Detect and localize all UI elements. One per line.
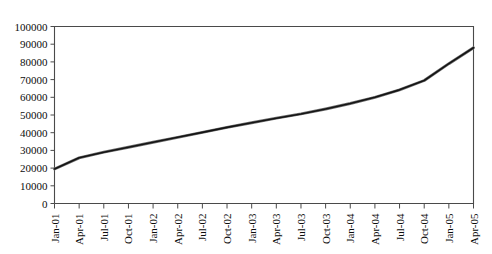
x-axis-tick-label: Jan-04 xyxy=(344,213,356,243)
x-axis-tick-label: Jul-04 xyxy=(394,213,406,241)
y-axis-tick-label: 30000 xyxy=(20,144,48,156)
x-axis-tick-label: Apr-02 xyxy=(172,214,184,246)
y-axis-tick-label: 20000 xyxy=(20,162,48,174)
x-axis-tick-label: Oct-04 xyxy=(418,213,430,244)
y-axis-tick-label: 0 xyxy=(42,198,48,210)
x-axis-tick-label: Jan-05 xyxy=(443,213,455,243)
x-axis-tick-label: Oct-03 xyxy=(320,213,332,244)
y-axis-tick-label: 70000 xyxy=(20,74,48,86)
line-chart: 0100002000030000400005000060000700008000… xyxy=(0,0,492,254)
x-axis-tick-label: Apr-05 xyxy=(468,213,480,245)
plot-frame xyxy=(55,27,474,204)
plot-border xyxy=(55,27,474,204)
data-series-group xyxy=(55,48,474,169)
x-axis-tick-label: Oct-02 xyxy=(221,214,233,245)
x-axis-tick-label: Apr-01 xyxy=(73,214,85,246)
y-axis-tick-label: 50000 xyxy=(20,109,48,121)
data-line-outline xyxy=(55,48,474,169)
y-axis-tick-label: 60000 xyxy=(20,91,48,103)
y-axis-tick-label: 10000 xyxy=(20,180,48,192)
y-axis-tick-label: 40000 xyxy=(20,127,48,139)
x-axis-tick-label: Jan-03 xyxy=(246,213,258,243)
x-axis-tick-label: Oct-01 xyxy=(122,214,134,245)
x-axis-tick-label: Apr-03 xyxy=(270,213,282,245)
y-axis-tick-label: 100000 xyxy=(15,21,49,33)
x-axis-tick-label: Jul-01 xyxy=(98,214,110,242)
y-axis-ticks: 0100002000030000400005000060000700008000… xyxy=(15,21,55,210)
x-axis-tick-label: Jan-01 xyxy=(49,214,61,243)
chart-canvas: 0100002000030000400005000060000700008000… xyxy=(0,0,492,254)
x-axis-tick-label: Jul-02 xyxy=(196,214,208,242)
y-axis-tick-label: 80000 xyxy=(20,56,48,68)
x-axis-tick-label: Jan-02 xyxy=(147,214,159,243)
y-axis-tick-label: 90000 xyxy=(20,38,48,50)
x-axis-tick-label: Jul-03 xyxy=(295,213,307,241)
x-axis-tick-label: Apr-04 xyxy=(369,213,381,245)
x-axis-ticks: Jan-01Apr-01Jul-01Oct-01Jan-02Apr-02Jul-… xyxy=(49,204,480,246)
